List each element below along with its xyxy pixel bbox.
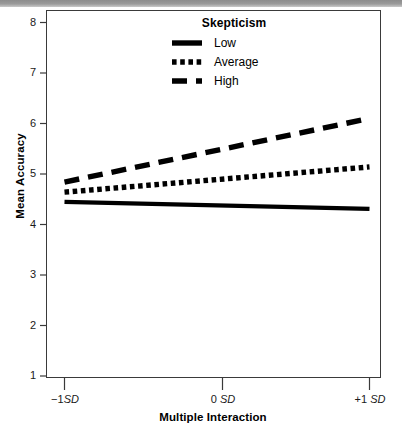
x-tick-unit-minus1: SD [64,393,79,405]
legend-item-high: High [170,71,298,90]
y-tick-label-1: 1 [18,369,36,381]
y-tick-label-2: 2 [18,319,36,331]
x-axis-title: Multiple Interaction [46,411,380,423]
x-tick-label-plus1sd: +1 SD [339,393,401,405]
legend-item-low: Low [170,33,298,52]
legend-title: Skepticism [170,16,298,30]
x-tick-sign-minus1: −1 [51,393,64,405]
y-tick-label-8: 8 [18,16,36,28]
x-tick-sign-plus1: +1 [355,393,368,405]
x-tick-unit-0: SD [220,393,235,405]
legend-key-high [170,75,208,87]
y-tick-marks [40,23,47,377]
legend-key-average [170,56,208,68]
legend-key-low [170,37,208,49]
legend: Skepticism Low Average High [168,16,298,90]
x-tick-label-minus1sd: −1SD [34,393,96,405]
y-tick-label-3: 3 [18,268,36,280]
chart-figure: 8 7 6 5 4 3 2 1 −1SD 0 SD +1 SD Mean Acc… [0,0,402,433]
x-tick-marks [65,378,370,391]
y-axis-title: Mean Accuracy [14,116,26,236]
x-tick-sign-0: 0 [211,393,217,405]
legend-item-average: Average [170,52,298,71]
legend-label-high: High [214,75,239,87]
x-tick-unit-plus1: SD [370,393,385,405]
legend-label-average: Average [214,56,258,68]
legend-label-low: Low [214,37,236,49]
x-tick-label-0sd: 0 SD [192,393,254,405]
y-tick-label-7: 7 [18,66,36,78]
